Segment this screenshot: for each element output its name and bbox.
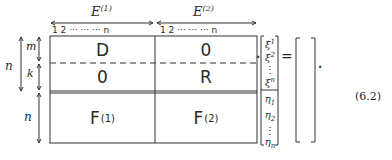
row-label-n-top: n: [5, 59, 13, 73]
block-f2: F(2): [155, 93, 257, 143]
equals-sign: =: [281, 48, 293, 64]
vector-eta: η1 η2 ⋮ ηn: [262, 93, 278, 152]
multiply-dot: ·: [256, 50, 260, 64]
row-label-n-bottom: n: [24, 110, 32, 124]
column-indices-left: 1 2 ··· ··· ··· n: [52, 25, 109, 35]
equation-number: (6.2): [355, 90, 381, 103]
label-e1: E(1): [91, 4, 112, 19]
column-indices-right: 1 2 ··· ··· ··· n: [160, 25, 217, 35]
label-e2: E(2): [193, 4, 214, 19]
block-zero-mid: 0: [50, 63, 155, 91]
row-label-k: k: [27, 67, 34, 80]
end-dot: ·: [318, 60, 322, 74]
block-r: R: [155, 63, 257, 91]
vector-xi: ξ1 ξ2 ⋮ ξn: [262, 37, 278, 88]
block-zero-top: 0: [155, 36, 257, 63]
block-f1: F(1): [50, 93, 155, 143]
block-d: D: [50, 36, 155, 63]
row-label-m: m: [26, 40, 36, 53]
